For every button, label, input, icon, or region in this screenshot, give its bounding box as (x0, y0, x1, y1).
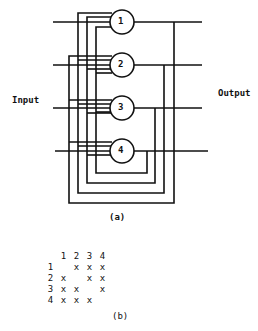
caption-a: (a) (109, 212, 125, 222)
cell (70, 273, 83, 284)
input-label: Input (12, 95, 39, 105)
row-label: 2 (44, 273, 57, 284)
cell: x (70, 284, 83, 295)
cell: x (96, 284, 109, 295)
network-diagram (0, 0, 258, 331)
hopfield-network-figure: 1 2 3 4 Input Output (a) 1 2 3 4 1xxx 2x… (0, 0, 258, 331)
cell: x (83, 262, 96, 273)
row-label: 3 (44, 284, 57, 295)
col-header: 4 (96, 251, 109, 262)
cell: x (70, 295, 83, 306)
cell: x (83, 273, 96, 284)
neuron-3-label: 3 (118, 102, 123, 112)
caption-b: (b) (112, 311, 128, 321)
row-label: 1 (44, 262, 57, 273)
cell: x (83, 295, 96, 306)
cell: x (96, 273, 109, 284)
cell (96, 295, 109, 306)
col-header: 2 (70, 251, 83, 262)
matrix-row: 4xxx (44, 295, 109, 306)
cell: x (57, 284, 70, 295)
cell (57, 262, 70, 273)
connection-matrix: 1 2 3 4 1xxx 2xxx 3xxx 4xxx (44, 251, 109, 306)
neuron-1-label: 1 (118, 16, 123, 26)
cell: x (96, 262, 109, 273)
row-label: 4 (44, 295, 57, 306)
col-header: 1 (57, 251, 70, 262)
cell: x (70, 262, 83, 273)
neuron-2-label: 2 (118, 59, 123, 69)
matrix-row: 2xxx (44, 273, 109, 284)
col-header: 3 (83, 251, 96, 262)
matrix-row: 1xxx (44, 262, 109, 273)
cell (83, 284, 96, 295)
output-label: Output (218, 88, 251, 98)
cell: x (57, 273, 70, 284)
cell: x (57, 295, 70, 306)
neuron-4-label: 4 (118, 145, 123, 155)
matrix-row: 3xxx (44, 284, 109, 295)
